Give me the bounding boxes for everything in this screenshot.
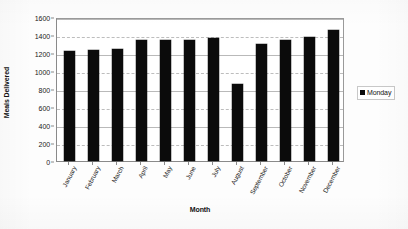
bar-february <box>88 50 99 161</box>
y-tickmark-800 <box>51 90 54 91</box>
y-ticklabel-1200: 1200 <box>35 51 50 58</box>
x-tickmark-march <box>116 162 117 165</box>
plot-area <box>56 18 344 162</box>
bar-october <box>280 40 291 162</box>
bar-august <box>232 84 243 161</box>
x-tickmark-april <box>140 162 141 165</box>
y-ticklabel-1600: 1600 <box>35 15 50 22</box>
y-tickmark-400 <box>51 126 54 127</box>
y-ticklabel-200: 200 <box>39 141 50 148</box>
x-ticklabel-text: September <box>248 165 269 196</box>
y-ticklabel-600: 600 <box>39 105 50 112</box>
bar-april <box>136 40 147 161</box>
bar-november <box>304 37 315 161</box>
x-ticklabel-text: November <box>297 165 317 194</box>
x-tickmark-november <box>308 162 309 165</box>
x-ticklabel-text: July <box>210 165 221 178</box>
x-tickmark-august <box>236 162 237 165</box>
x-ticklabel-text: January <box>60 165 77 188</box>
x-ticklabel-text: May <box>161 165 173 179</box>
x-ticklabel-text: December <box>321 165 341 194</box>
x-axis-title: Month <box>56 206 344 213</box>
x-ticklabel-text: June <box>185 165 198 180</box>
y-tickmark-1600 <box>51 18 54 19</box>
bar-march <box>112 49 123 161</box>
y-ticklabel-800: 800 <box>39 87 50 94</box>
y-tickmark-200 <box>51 144 54 145</box>
bar-december <box>328 30 339 161</box>
y-ticklabel-400: 400 <box>39 123 50 130</box>
bar-july <box>208 38 219 161</box>
y-tickmark-0 <box>51 162 54 163</box>
bar-january <box>64 51 75 161</box>
x-tickmark-september <box>260 162 261 165</box>
x-ticklabel-text: April <box>137 165 149 179</box>
bar-may <box>160 40 171 162</box>
x-ticklabel-text: March <box>111 165 125 184</box>
y-tickmark-1200 <box>51 54 54 55</box>
y-ticklabel-1400: 1400 <box>35 33 50 40</box>
bar-chart-figure: Meals Delivered 020040060080010001200140… <box>0 0 408 229</box>
x-tickmark-may <box>164 162 165 165</box>
x-tickmark-december <box>332 162 333 165</box>
y-axis-ticklabels: 02004006008001000120014001600 <box>0 18 54 162</box>
y-tickmark-1400 <box>51 36 54 37</box>
x-ticklabel-text: October <box>276 165 293 188</box>
x-ticklabel-text: August <box>230 165 245 186</box>
bars-layer <box>57 19 343 161</box>
legend-label-monday: Monday <box>367 89 391 96</box>
bar-september <box>256 44 267 161</box>
y-tickmark-600 <box>51 108 54 109</box>
x-tickmark-june <box>188 162 189 165</box>
x-tickmark-july <box>212 162 213 165</box>
chart-legend: Monday <box>357 86 395 100</box>
y-tickmark-1000 <box>51 72 54 73</box>
x-tickmark-february <box>92 162 93 165</box>
x-tickmark-october <box>284 162 285 165</box>
x-axis-ticklabels: JanuaryFebruaryMarchAprilMayJuneJulyAugu… <box>56 163 344 201</box>
x-tickmark-january <box>68 162 69 165</box>
legend-swatch-monday <box>360 90 365 95</box>
y-ticklabel-1000: 1000 <box>35 69 50 76</box>
y-ticklabel-0: 0 <box>46 159 50 166</box>
x-ticklabel-text: February <box>83 165 101 191</box>
bar-june <box>184 40 195 161</box>
